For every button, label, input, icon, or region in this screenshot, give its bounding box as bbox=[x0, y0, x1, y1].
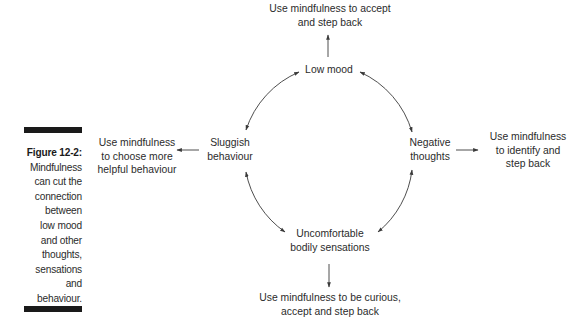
arc-negative-thoughts-bodily bbox=[378, 170, 412, 232]
node-negative-thoughts: Negative thoughts bbox=[403, 136, 457, 163]
arc-bodily-sluggish bbox=[246, 172, 285, 232]
arc-low-mood-negative-thoughts bbox=[360, 72, 412, 132]
response-bottom: Use mindfulness to be curious, accept an… bbox=[254, 291, 405, 318]
node-sluggish-behaviour: Sluggish behaviour bbox=[203, 136, 257, 163]
response-right: Use mindfulness to identify and step bac… bbox=[483, 130, 573, 171]
response-top: Use mindfulness to accept and step back bbox=[267, 2, 393, 29]
node-low-mood: Low mood bbox=[301, 63, 357, 77]
node-bodily-sensations: Uncomfortable bodily sensations bbox=[283, 227, 377, 254]
arc-sluggish-low-mood bbox=[246, 72, 299, 130]
response-left: Use mindfulness to choose more helpful b… bbox=[88, 136, 187, 177]
